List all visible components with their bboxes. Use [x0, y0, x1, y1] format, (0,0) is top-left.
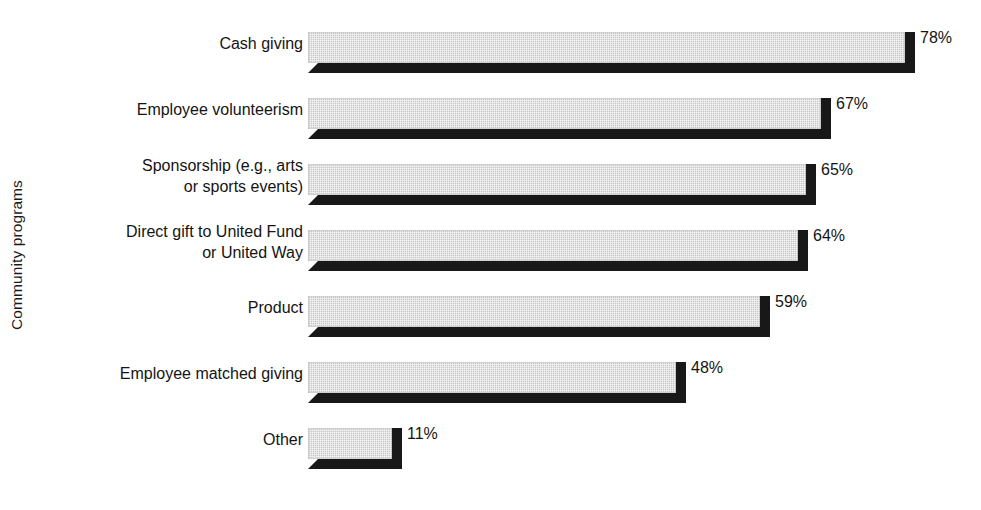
bar-value-label: 65%	[821, 159, 853, 180]
bar-front-face	[308, 164, 806, 195]
bar-front-face	[308, 362, 676, 393]
bar	[308, 98, 831, 139]
category-label: Other	[3, 429, 303, 450]
bar-row: Direct gift to United Fund or United Way…	[0, 220, 981, 272]
bar-value-label: 59%	[775, 291, 807, 312]
plot-area: Cash giving78%Employee volunteerism67%Sp…	[0, 0, 981, 510]
bar-row: Other11%	[0, 418, 981, 470]
bar-front-face	[308, 32, 905, 63]
bar-bottom-face	[308, 327, 770, 337]
bar-bottom-face	[308, 261, 808, 271]
category-label: Employee matched giving	[3, 363, 303, 384]
bar-row: Employee matched giving48%	[0, 352, 981, 404]
bar	[308, 296, 770, 337]
bar-row: Cash giving78%	[0, 22, 981, 74]
bar-row: Product59%	[0, 286, 981, 338]
bar-bottom-face	[308, 393, 686, 403]
category-label: Employee volunteerism	[3, 99, 303, 120]
bar-front-face	[308, 296, 760, 327]
bar-bottom-face	[308, 63, 915, 73]
bar-value-label: 78%	[920, 27, 952, 48]
bar-front-face	[308, 230, 798, 261]
bar-row: Sponsorship (e.g., arts or sports events…	[0, 154, 981, 206]
bar-row: Employee volunteerism67%	[0, 88, 981, 140]
bar-bottom-face	[308, 459, 402, 469]
bar	[308, 164, 816, 205]
bar	[308, 428, 402, 469]
bar	[308, 362, 686, 403]
chart-canvas: Community programs Cash giving78%Employe…	[0, 0, 981, 510]
bar	[308, 230, 808, 271]
bar-value-label: 11%	[407, 423, 438, 444]
bar-front-face	[308, 428, 392, 459]
category-label: Cash giving	[3, 33, 303, 54]
bar-bottom-face	[308, 195, 816, 205]
bar-value-label: 64%	[813, 225, 845, 246]
bar-value-label: 48%	[691, 357, 723, 378]
category-label: Sponsorship (e.g., arts or sports events…	[3, 155, 303, 197]
category-label: Direct gift to United Fund or United Way	[3, 221, 303, 263]
bar-front-face	[308, 98, 821, 129]
bar	[308, 32, 915, 73]
bar-value-label: 67%	[836, 93, 868, 114]
bar-bottom-face	[308, 129, 831, 139]
category-label: Product	[3, 297, 303, 318]
